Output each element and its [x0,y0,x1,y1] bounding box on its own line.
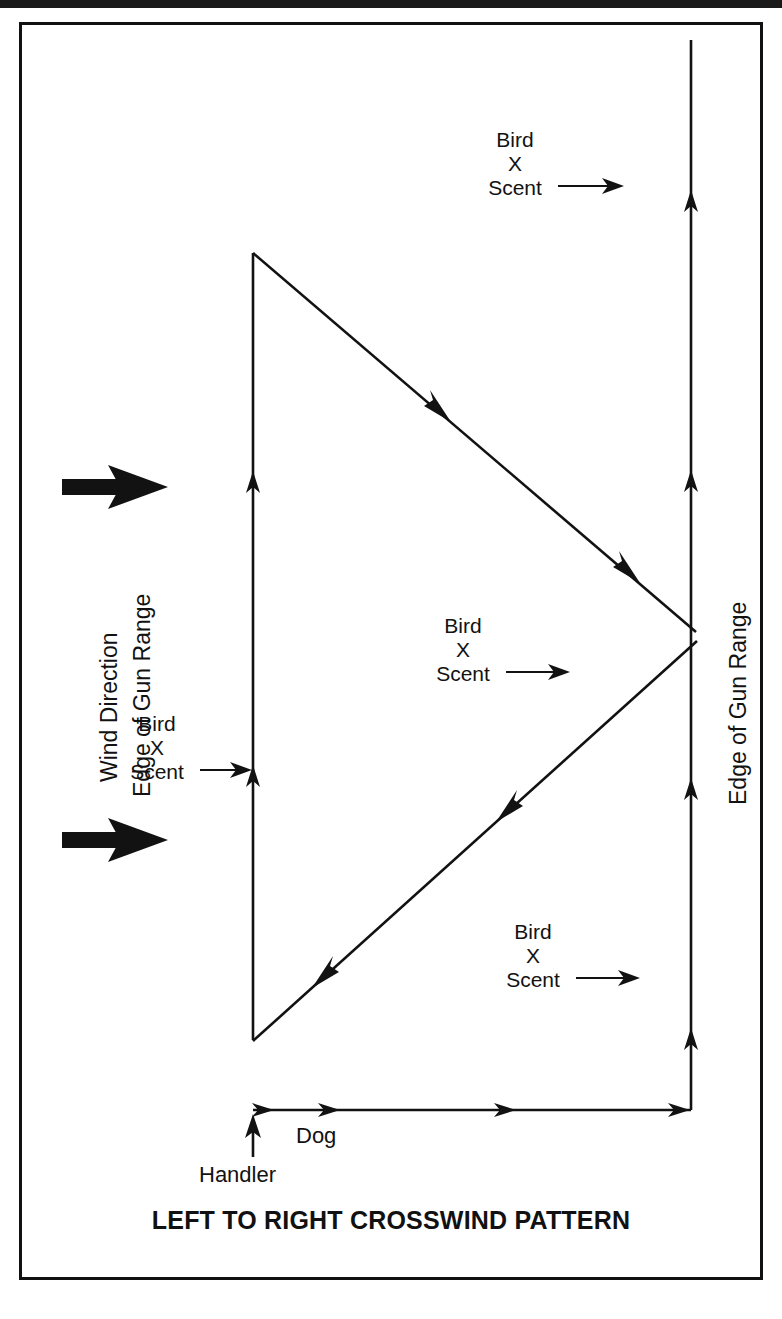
dog-label: Dog [296,1124,336,1149]
scent-label: Scent [470,176,560,200]
bird-x-mark: X [418,638,508,662]
bird-marker-bottom: Bird X Scent [488,920,578,992]
bird-x-mark: X [488,944,578,968]
bird-marker-left: Bird X Scent [112,712,202,784]
bird-marker-middle: Bird X Scent [418,614,508,686]
bird-label: Bird [418,614,508,638]
bird-marker-top: Bird X Scent [470,128,560,200]
edge-of-gun-range-label-right: Edge of Gun Range [725,602,752,805]
handler-label: Handler [199,1163,276,1188]
bird-label: Bird [488,920,578,944]
figure-page: Bird X Scent Bird X Scent Bird X Scent B… [0,0,782,1319]
edge-of-gun-range-label-left: Edge of Gun Range [129,594,156,797]
scent-label: Scent [488,968,578,992]
bird-x-mark: X [470,152,560,176]
scent-label: Scent [418,662,508,686]
bird-label: Bird [112,712,202,736]
page-top-rule [0,0,782,8]
scent-label: Scent [112,760,202,784]
bird-x-mark: X [112,736,202,760]
bird-label: Bird [470,128,560,152]
figure-caption: LEFT TO RIGHT CROSSWIND PATTERN [19,1206,763,1235]
wind-direction-label: Wind Direction [96,632,123,782]
